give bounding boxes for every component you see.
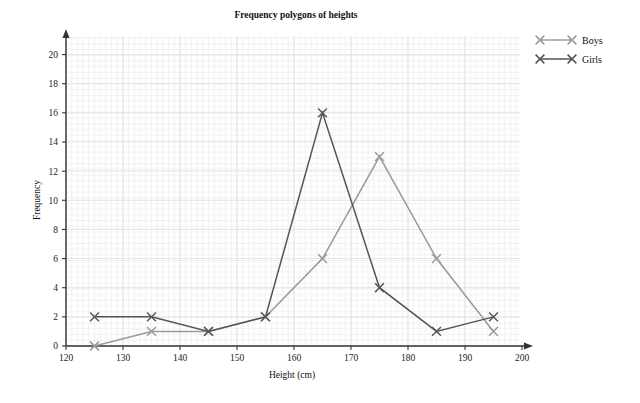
- x-tick-label: 190: [458, 353, 473, 363]
- x-tick-label: 150: [230, 353, 245, 363]
- y-tick-label: 18: [49, 79, 59, 89]
- y-tick-label: 8: [53, 225, 58, 235]
- y-tick-label: 10: [49, 196, 59, 206]
- x-tick-label: 170: [344, 353, 359, 363]
- y-tick-label: 20: [49, 50, 59, 60]
- y-tick-label: 6: [53, 254, 58, 264]
- legend-label: Girls: [582, 54, 602, 65]
- y-tick-label: 16: [49, 108, 59, 118]
- x-tick-label: 180: [401, 353, 416, 363]
- x-axis-label: Height (cm): [269, 370, 315, 381]
- x-tick-label: 130: [116, 353, 131, 363]
- chart-figure: 1201301401501601701801902000246810121416…: [0, 0, 640, 403]
- y-tick-label: 2: [53, 312, 58, 322]
- y-axis-label: Frequency: [32, 180, 42, 220]
- x-tick-label: 200: [515, 353, 530, 363]
- chart-title: Frequency polygons of heights: [234, 10, 357, 20]
- y-tick-label: 14: [49, 137, 59, 147]
- x-tick-label: 140: [173, 353, 188, 363]
- y-tick-label: 0: [53, 341, 58, 351]
- legend-label: Boys: [582, 35, 603, 46]
- frequency-polygon-chart: 1201301401501601701801902000246810121416…: [0, 0, 640, 403]
- y-tick-label: 12: [49, 167, 59, 177]
- chart-background: [0, 0, 640, 403]
- y-tick-label: 4: [53, 283, 58, 293]
- x-tick-label: 120: [59, 353, 74, 363]
- x-tick-label: 160: [287, 353, 302, 363]
